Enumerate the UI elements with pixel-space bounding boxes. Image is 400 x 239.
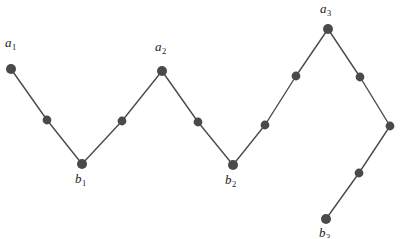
intermediate-node: [261, 121, 270, 130]
vertex-node-b1: [77, 159, 87, 169]
label-subscript: 3: [326, 232, 330, 239]
intermediate-node: [118, 117, 127, 126]
intermediate-node: [356, 73, 365, 82]
vertex-node-b2: [228, 160, 238, 170]
zigzag-node-group: [6, 24, 394, 224]
label-subscript: 1: [82, 178, 86, 188]
intermediate-node: [292, 72, 301, 81]
vertex-label-b1: b1: [75, 172, 86, 185]
label-base: b: [319, 225, 326, 238]
label-base: a: [5, 35, 12, 50]
label-subscript: 2: [162, 46, 166, 56]
vertex-node-a3: [323, 24, 333, 34]
zigzag-diagram-svg: [0, 0, 400, 238]
label-subscript: 2: [232, 179, 236, 189]
intermediate-node: [43, 116, 52, 125]
vertex-node-b3: [321, 214, 331, 224]
vertex-label-a3: a3: [320, 2, 331, 15]
vertex-label-a2: a2: [155, 40, 166, 53]
zigzag-figure: a1b1a2b2a3b3: [0, 0, 400, 238]
label-base: b: [225, 172, 232, 187]
label-subscript: 3: [327, 8, 331, 18]
label-subscript: 1: [12, 42, 16, 52]
vertex-label-a1: a1: [5, 36, 16, 49]
vertex-label-b3: b3: [319, 226, 330, 238]
vertex-node-a1: [6, 64, 16, 74]
label-base: b: [75, 171, 82, 186]
label-base: a: [320, 1, 327, 16]
vertex-label-b2: b2: [225, 173, 236, 186]
intermediate-node: [194, 118, 203, 127]
intermediate-node: [386, 122, 395, 131]
vertex-node-a2: [157, 66, 167, 76]
label-base: a: [155, 39, 162, 54]
intermediate-node: [355, 169, 364, 178]
